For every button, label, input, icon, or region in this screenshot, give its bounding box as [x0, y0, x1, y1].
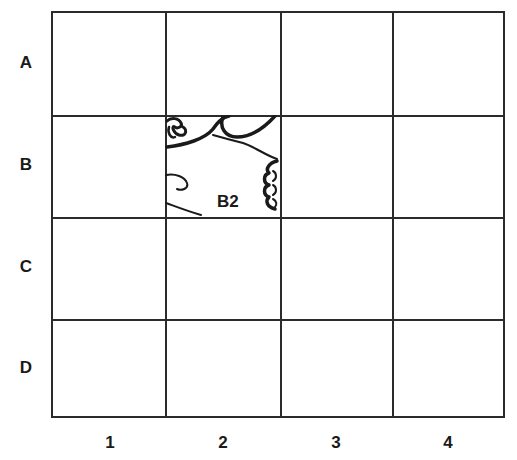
row-label-a: A [16, 53, 36, 73]
grid-line-vertical [392, 13, 394, 416]
cell-label-b2: B2 [217, 192, 239, 212]
row-label-b: B [16, 155, 36, 175]
column-label-1: 1 [100, 433, 120, 453]
row-label-d: D [16, 358, 36, 378]
grid-line-horizontal [53, 319, 503, 321]
row-label-c: C [16, 257, 36, 277]
column-label-4: 4 [438, 433, 458, 453]
grid-line-horizontal [53, 217, 503, 219]
column-label-3: 3 [326, 433, 346, 453]
grid-line-vertical [280, 13, 282, 416]
column-label-2: 2 [213, 433, 233, 453]
